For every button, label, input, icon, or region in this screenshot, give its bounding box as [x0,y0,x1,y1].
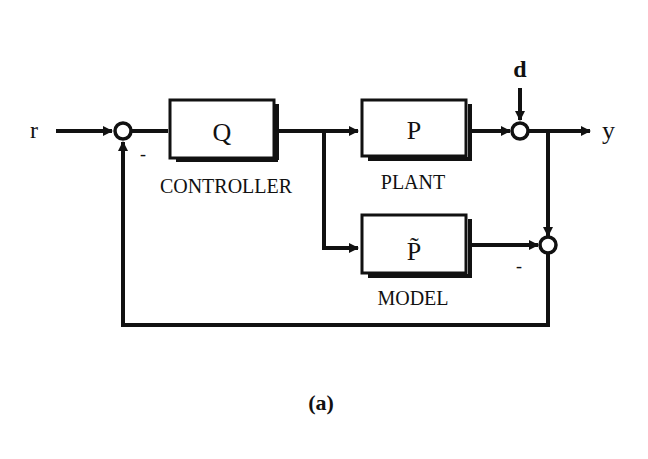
summing-junction-1 [115,123,131,139]
minus-sign-1: - [140,144,146,164]
imc-block-diagram: r - Q CONTROLLER P PLANT d y P̃ MODEL - … [0,0,648,459]
plant-label: PLANT [381,171,445,193]
controller-label: CONTROLLER [160,175,293,197]
block-p-symbol: P [407,116,421,145]
model-label: MODEL [377,287,448,309]
signal-d-label: d [513,56,527,82]
figure-caption: (a) [308,390,334,415]
signal-r-label: r [30,117,38,143]
minus-sign-3: - [516,256,522,276]
block-q-symbol: Q [213,118,232,147]
block-model-symbol: P̃ [407,237,421,266]
summing-junction-3 [540,237,556,253]
signal-y-label: y [602,116,615,145]
summing-junction-2 [512,123,528,139]
